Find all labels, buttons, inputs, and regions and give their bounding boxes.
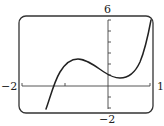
y-max-label: 6 (104, 4, 111, 15)
x-min-label: −2 (1, 81, 17, 92)
y-min-label: −2 (99, 114, 115, 125)
viewing-window-frame (19, 16, 153, 113)
function-curve (46, 20, 151, 109)
chart-plot (0, 0, 164, 126)
x-max-label: 1 (157, 81, 164, 92)
